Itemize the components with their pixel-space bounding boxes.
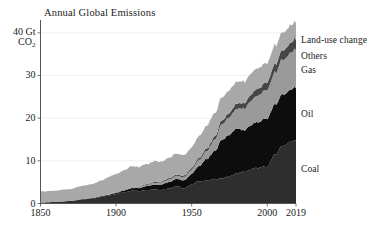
x-axis-tick-label-2019: 2019 [280, 208, 312, 218]
x-axis-tick-label-1900: 1900 [100, 208, 132, 218]
y-axis-tick-label-10: 10 [26, 156, 36, 166]
area-series-group [41, 21, 297, 204]
y-axis-tick-label-30: 30 [26, 70, 36, 80]
series-label-gas: Gas [301, 65, 316, 75]
chart-page: Annual Global Emissions 010203040 GtCO2 … [0, 0, 383, 234]
series-label-oil: Oil [301, 109, 313, 119]
y-axis-unit-subscript: 2 [32, 41, 36, 49]
x-axis-tick-label-1950: 1950 [176, 208, 208, 218]
x-axis-tick-label-1850: 1850 [25, 208, 57, 218]
x-axis-tick-label-2000: 2000 [251, 208, 283, 218]
y-axis-tick-label-20: 20 [26, 113, 36, 123]
series-label-others: Others [301, 51, 327, 61]
y-axis-tick-label-40: 40 GtCO2 [13, 27, 36, 48]
y-axis-unit-line2: CO2 [13, 37, 36, 48]
series-label-coal: Coal [301, 164, 319, 174]
series-label-land-use-change: Land-use change [301, 35, 367, 45]
